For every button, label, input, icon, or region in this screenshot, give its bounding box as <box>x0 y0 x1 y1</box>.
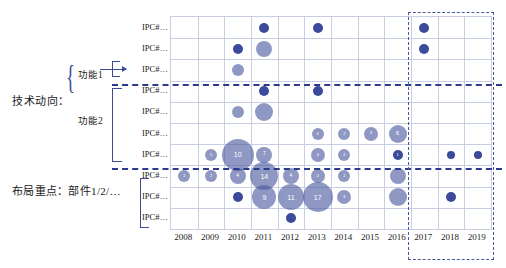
x-axis-label: 2009 <box>201 232 219 242</box>
data-bubble: 2 <box>205 170 217 182</box>
data-bubble <box>390 168 406 184</box>
data-bubble: 2 <box>311 169 325 183</box>
tech-trend-brace: { <box>66 60 75 94</box>
data-bubble <box>233 192 243 202</box>
y-axis-label: IPC#… <box>142 43 168 53</box>
data-bubble <box>233 44 243 54</box>
x-axis-label: 2016 <box>388 232 406 242</box>
data-bubble <box>313 23 323 33</box>
data-bubble <box>255 103 273 121</box>
data-bubble <box>286 213 296 223</box>
data-bubble: 7 <box>256 147 272 163</box>
y-axis-label: IPC#… <box>142 212 168 222</box>
data-bubble: 2 <box>178 170 190 182</box>
x-axis-label: 2013 <box>308 232 326 242</box>
y-axis-label: IPC#… <box>142 22 168 32</box>
data-bubble: 2 <box>338 128 350 140</box>
data-bubble: 17 <box>303 182 333 212</box>
chart-figure: 技术动向： { 功能1 功能2 布局重点：部件1/2/… IPC#…IPC#…I… <box>0 0 506 268</box>
y-axis-label: IPC#… <box>142 128 168 138</box>
data-bubble: 11 <box>278 184 304 210</box>
data-bubble <box>232 106 244 118</box>
data-bubble <box>256 41 272 57</box>
x-axis-label: 2015 <box>361 232 379 242</box>
data-bubble: 4 <box>283 168 299 184</box>
data-bubble <box>389 188 407 206</box>
y-axis-labels: IPC#…IPC#…IPC#…IPC#…IPC#…IPC#…IPC#…IPC#…… <box>118 16 168 228</box>
data-bubble: 4 <box>312 128 324 140</box>
data-bubble: 2 <box>338 149 350 161</box>
x-axis-label: 2008 <box>174 232 192 242</box>
data-bubble: 4 <box>230 168 246 184</box>
y-axis-label: IPC#… <box>142 106 168 116</box>
data-bubble: 6 <box>389 125 407 143</box>
data-bubble: 3 <box>337 190 351 204</box>
function2-label: 功能2 <box>78 113 103 127</box>
data-bubble: 1 <box>393 150 403 160</box>
data-bubble <box>232 64 244 76</box>
y-axis-label: IPC#… <box>142 191 168 201</box>
data-bubble <box>259 23 269 33</box>
x-axis-label: 2010 <box>228 232 246 242</box>
data-bubble: 10 <box>222 139 254 171</box>
data-bubble <box>259 86 269 96</box>
data-bubble: 9 <box>252 185 276 209</box>
data-bubble: 4 <box>311 148 325 162</box>
data-bubble <box>313 86 323 96</box>
x-axis-label: 2011 <box>254 232 272 242</box>
data-bubble: 3 <box>364 127 378 141</box>
data-bubble: 5 <box>205 149 217 161</box>
focus-box-2017-2019 <box>408 12 494 260</box>
data-bubble: 2 <box>338 170 350 182</box>
y-axis-label: IPC#… <box>142 170 168 180</box>
y-axis-label: IPC#… <box>142 85 168 95</box>
y-axis-label: IPC#… <box>142 64 168 74</box>
y-axis-label: IPC#… <box>142 149 168 159</box>
tech-trend-label: 技术动向： <box>12 92 70 108</box>
x-axis-label: 2012 <box>281 232 299 242</box>
x-axis-label: 2014 <box>334 232 352 242</box>
layout-focus-label: 布局重点：部件1/2/… <box>12 182 121 198</box>
